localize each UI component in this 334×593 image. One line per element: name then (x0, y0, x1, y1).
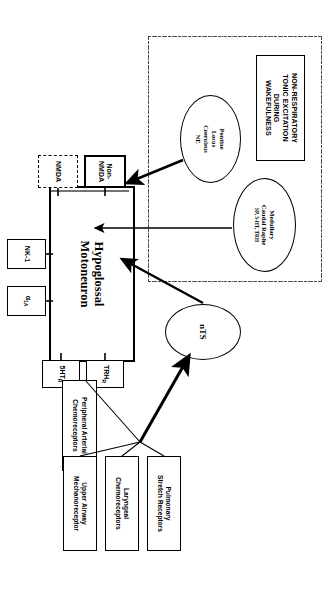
mcr-line-2: Caudal Raphe (260, 205, 268, 246)
receptor-nk-1: NK-1 (7, 239, 46, 269)
lcr-line-2: Chemoreceptors (114, 477, 122, 529)
trh-label: TRH (103, 365, 110, 379)
trh-subscript: R (101, 379, 107, 383)
plc-line-4: NE (195, 125, 203, 153)
pac-line-2: Chemoreceptors (71, 397, 79, 454)
node-nts: nTS (165, 304, 241, 360)
link-lcr-to-fan (122, 442, 140, 456)
uam-line-2: Mechanoreceptor (72, 476, 80, 531)
nk1-label: NK-1 (22, 246, 30, 262)
hmn-line-2: Motoneuron (78, 241, 92, 308)
5ht-label: 5HT (59, 366, 66, 379)
psr-line-2: Stretch Receptors (156, 475, 164, 532)
hmn-line-1: Hypoglossal (92, 241, 106, 308)
psr-line-1: Pulmonary (164, 475, 172, 532)
plc-line-2: Locus (211, 125, 219, 153)
pac-line-1: Peripheral Arterial (80, 397, 88, 454)
title-box: NON-RESPIRATORY TONIC EXCITATION DURING … (256, 55, 305, 161)
node-medullary-caudal-raphe: Medullary Caudal Raphe SP, 5-HT, TRH (233, 178, 296, 272)
figure-canvas: NON-RESPIRATORY TONIC EXCITATION DURING … (0, 0, 334, 593)
node-pontine-locus-coeruleus: Pontine Locus Coeruleus NE (180, 95, 241, 183)
lcr-line-1: Laryngeal (122, 477, 130, 529)
receptor-alpha-1a: α1A (7, 286, 46, 316)
node-pulmonary-stretch-receptors: Pulmonary Stretch Receptors (147, 456, 181, 551)
mcr-line-1: Medullary (268, 205, 276, 246)
plc-line-3: Coeruleus (203, 125, 211, 153)
receptor-nmda: NMDA (38, 155, 78, 188)
plc-line-1: Pontine (219, 125, 227, 153)
alpha-subscript: 1A (22, 300, 28, 306)
title-line-2: TONIC EXCITATION (281, 73, 290, 143)
non-nmda-line-1: Non- (105, 161, 113, 182)
mcr-line-3: SP, 5-HT, TRH (253, 205, 259, 246)
uam-line-1: Upper Airway (80, 476, 88, 531)
title-line-3: DURING (272, 73, 281, 143)
node-hypoglossal-motoneuron: Hypoglossal Motoneuron (49, 186, 135, 362)
node-upper-airway-mechanoreceptor: Upper Airway Mechanoreceptor (63, 456, 97, 551)
link-psr-to-fan (140, 442, 164, 456)
receptor-non-nmda: Non- NMDA (84, 155, 126, 188)
nts-label: nTS (198, 324, 208, 339)
title-line-4: WAKEFULNESS (263, 73, 272, 143)
arrow-afferents-to-nts (140, 356, 189, 442)
node-laryngeal-chemoreceptors: Laryngeal Chemoreceptors (105, 456, 139, 551)
title-line-1: NON-RESPIRATORY (289, 73, 298, 143)
non-nmda-line-2: NMDA (97, 161, 105, 182)
nmda-label: NMDA (54, 161, 62, 182)
